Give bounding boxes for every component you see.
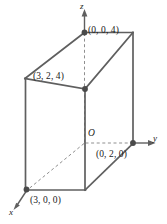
z-axis-label: z — [80, 2, 84, 11]
box-edges — [25, 33, 133, 191]
edge-top-front-right — [85, 33, 133, 90]
figure-root: (0, 0, 4) (3, 2, 4) (0, 2, 0) (3, 0, 0) … — [0, 0, 167, 224]
dashed-lines — [29, 33, 132, 189]
y-axis-label: y — [153, 134, 157, 143]
x-axis-dashed-segment — [29, 144, 85, 190]
vertex-marker-3-2-4 — [82, 86, 88, 92]
box-diagram — [0, 0, 167, 224]
vertex-label-0-0-4: (0, 0, 4) — [88, 26, 119, 36]
vertex-marker-3-0-0 — [24, 187, 30, 193]
x-axis-label: x — [9, 208, 13, 217]
origin-label: O — [88, 129, 95, 139]
vertex-markers — [24, 30, 136, 193]
x-axis-line — [17, 190, 28, 206]
axis-lines — [17, 13, 152, 206]
vertex-label-3-2-4: (3, 2, 4) — [33, 72, 64, 82]
vertex-label-0-2-0: (0, 2, 0) — [96, 150, 127, 160]
vertex-marker-0-0-4 — [82, 30, 88, 36]
x-axis-arrowhead — [14, 203, 20, 210]
vertex-label-3-0-0: (3, 0, 0) — [30, 196, 61, 206]
vertex-marker-0-2-0 — [130, 140, 136, 146]
